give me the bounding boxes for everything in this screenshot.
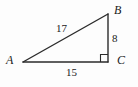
side-label-base-leg: 15: [66, 67, 77, 78]
vertex-label-a: A: [6, 54, 13, 66]
geometry-figure: A B C 17 8 15: [0, 0, 138, 87]
vertex-label-c: C: [117, 54, 125, 66]
side-label-vertical-leg: 8: [112, 33, 118, 44]
vertex-label-b: B: [114, 4, 121, 16]
right-angle-marker: [101, 55, 109, 63]
side-label-hypotenuse: 17: [56, 23, 67, 34]
